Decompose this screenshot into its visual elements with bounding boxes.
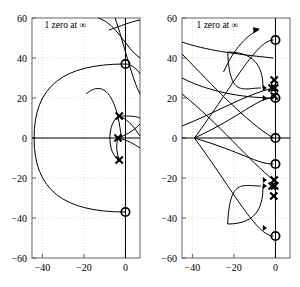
figure-root: −60−40−200204060−40−2001 zero at ∞ −60−4…	[0, 0, 300, 287]
y-tick-label: 0	[172, 133, 177, 144]
y-tick-label: −40	[11, 213, 27, 224]
plot-left-canvas: −60−40−200204060−40−2001 zero at ∞	[0, 0, 150, 287]
locus-branch	[118, 138, 140, 148]
x-tick-label: −40	[35, 262, 51, 273]
plot-left-locus-branches	[34, 18, 140, 212]
plot-left-axis-lines	[32, 18, 140, 258]
locus-branch	[125, 64, 140, 74]
locus-branch	[115, 18, 140, 94]
x-tick-label: 0	[273, 262, 278, 273]
y-tick-label: −60	[11, 253, 27, 264]
y-tick-label: 20	[17, 93, 27, 104]
locus-arrowhead	[263, 183, 267, 189]
y-tick-label: 60	[17, 13, 27, 24]
y-tick-label: −40	[161, 213, 177, 224]
locus-arrowhead	[263, 95, 267, 101]
plot-right-canvas: −60−40−200204060−40−2001 zero at ∞	[150, 0, 300, 287]
pole-marker	[270, 192, 277, 199]
y-tick-label: 60	[167, 13, 177, 24]
annotation-leader	[109, 20, 140, 30]
locus-branch	[228, 185, 261, 224]
x-tick-label: −40	[185, 262, 201, 273]
pole-marker	[271, 76, 278, 83]
locus-branch	[182, 54, 273, 138]
y-tick-label: 20	[167, 93, 177, 104]
root-locus-plot-right: −60−40−200204060−40−2001 zero at ∞	[150, 0, 300, 287]
y-tick-label: 0	[22, 133, 27, 144]
root-locus-plot-left: −60−40−200204060−40−2001 zero at ∞	[0, 0, 150, 287]
x-tick-label: −20	[76, 262, 92, 273]
y-tick-label: 40	[167, 53, 177, 64]
x-tick-label: −20	[226, 262, 242, 273]
annotation-label: 1 zero at ∞	[197, 20, 239, 30]
pole-marker	[116, 156, 123, 163]
y-tick-label: −20	[161, 173, 177, 184]
y-tick-label: −20	[11, 173, 27, 184]
y-tick-label: −60	[161, 253, 177, 264]
x-tick-label: 0	[123, 262, 128, 273]
locus-branch	[98, 18, 140, 58]
annotation-label: 1 zero at ∞	[44, 20, 86, 30]
y-tick-label: 40	[17, 53, 27, 64]
locus-arrowhead	[263, 225, 267, 231]
